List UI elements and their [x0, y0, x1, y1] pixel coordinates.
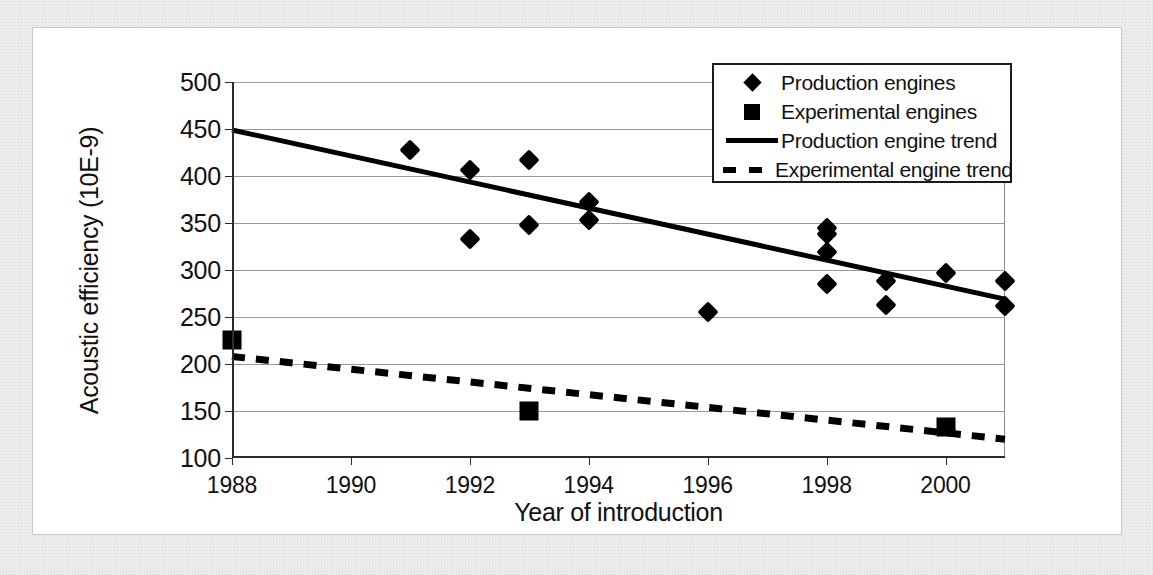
- y-tick-label: 150: [180, 397, 221, 426]
- x-tick-label: 1988: [207, 472, 257, 499]
- y-tick: [225, 176, 232, 177]
- y-tick: [225, 270, 232, 271]
- y-tick-label: 200: [180, 350, 221, 379]
- y-tick-label: 300: [180, 256, 221, 285]
- x-tick-label: 1994: [564, 472, 614, 499]
- x-tick: [232, 458, 233, 465]
- legend-label: Production engines: [781, 71, 955, 95]
- legend-item-experimental-engine-trend: Experimental engine trend: [714, 155, 1010, 184]
- chart-area: Acoustic efficiency (10E-9) 100150200250…: [33, 28, 1121, 534]
- y-tick: [225, 411, 232, 412]
- x-tick-label: 2000: [920, 472, 970, 499]
- y-tick-label: 400: [180, 162, 221, 191]
- x-tick: [589, 458, 590, 465]
- x-tick: [351, 458, 352, 465]
- legend-label: Experimental engine trend: [775, 158, 1013, 182]
- x-tick-label: 1996: [683, 472, 733, 499]
- y-tick-label: 500: [180, 68, 221, 97]
- y-tick-label: 250: [180, 303, 221, 332]
- y-tick: [225, 223, 232, 224]
- y-axis-title-text: Acoustic efficiency (10E-9): [76, 126, 105, 413]
- experimental-data-point: [520, 402, 539, 421]
- legend-item-experimental-engines: Experimental engines: [714, 97, 1010, 126]
- y-tick: [225, 129, 232, 130]
- dashed-line-icon: [723, 167, 775, 173]
- y-tick: [225, 364, 232, 365]
- x-tick: [827, 458, 828, 465]
- y-tick: [225, 82, 232, 83]
- square-marker-icon: [723, 104, 781, 120]
- legend-label: Experimental engines: [781, 100, 977, 124]
- x-tick-label: 1990: [326, 472, 376, 499]
- x-tick-label: 1998: [801, 472, 851, 499]
- solid-line-icon: [723, 138, 781, 143]
- x-axis-title: Year of introduction: [232, 498, 1005, 527]
- x-axis-line: [232, 456, 1005, 458]
- figure-panel: Acoustic efficiency (10E-9) 100150200250…: [33, 28, 1121, 534]
- scanned-page: Acoustic efficiency (10E-9) 100150200250…: [0, 0, 1153, 575]
- x-tick: [946, 458, 947, 465]
- x-tick: [708, 458, 709, 465]
- y-tick-label: 100: [180, 444, 221, 473]
- y-tick-label: 350: [180, 209, 221, 238]
- chart-legend: Production engines Experimental engines …: [712, 63, 1012, 183]
- experimental-trend-line: [232, 356, 1005, 439]
- legend-label: Production engine trend: [781, 129, 997, 153]
- diamond-marker-icon: [723, 76, 781, 89]
- y-tick: [225, 458, 232, 459]
- x-tick-label: 1992: [445, 472, 495, 499]
- experimental-data-point: [936, 417, 955, 436]
- legend-item-production-engine-trend: Production engine trend: [714, 126, 1010, 155]
- y-tick: [225, 317, 232, 318]
- y-axis-title: Acoustic efficiency (10E-9): [73, 82, 107, 458]
- legend-item-production-engines: Production engines: [714, 68, 1010, 97]
- y-axis-line: [232, 82, 234, 458]
- y-tick-label: 450: [180, 115, 221, 144]
- x-tick: [470, 458, 471, 465]
